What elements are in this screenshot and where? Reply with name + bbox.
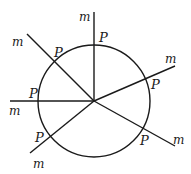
label-p-upper-right: P [150, 77, 160, 92]
label-m-upper-right: m [165, 52, 176, 66]
label-m-top: m [79, 10, 90, 24]
label-p-left: P [28, 86, 38, 101]
diagram-canvas: m P m P P m P m P m P m [0, 0, 191, 174]
label-p-lower-right: P [139, 133, 149, 148]
label-m-lower-right: m [173, 133, 184, 147]
line-upper-right [94, 66, 175, 101]
label-p-upper-left: P [53, 45, 63, 60]
label-p-top: P [98, 30, 108, 45]
label-m-left: m [9, 104, 20, 118]
line-lower-left [30, 101, 94, 153]
label-p-lower-left: P [34, 130, 44, 145]
label-m-lower-left: m [33, 157, 44, 171]
label-m-upper-left: m [12, 35, 23, 49]
